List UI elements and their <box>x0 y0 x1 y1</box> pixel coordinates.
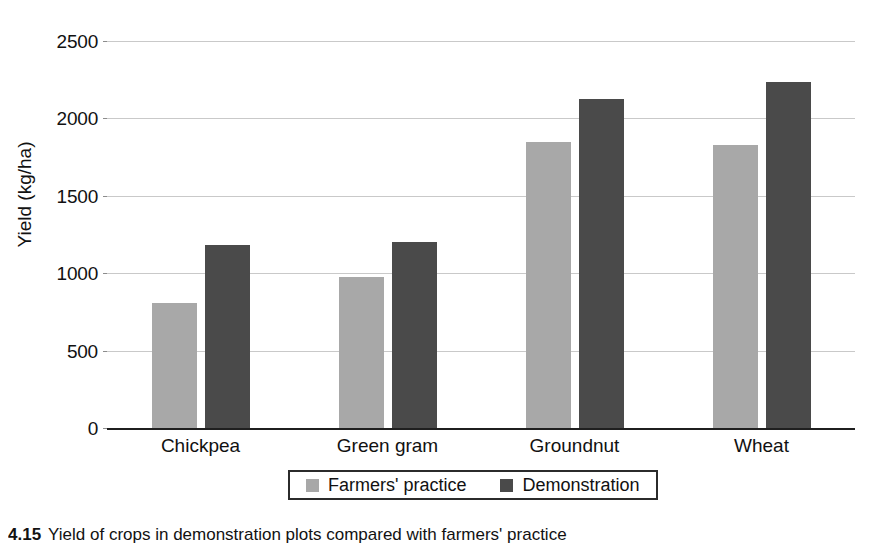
bar-green-gram-demonstration <box>392 242 437 428</box>
figure-caption-text: Yield of crops in demonstration plots co… <box>48 525 567 543</box>
bar-green-gram-farmers-practice <box>339 277 384 428</box>
bar-groundnut-demonstration <box>579 99 624 428</box>
x-axis-line <box>107 428 855 430</box>
gridline <box>107 41 855 42</box>
bar-wheat-demonstration <box>766 82 811 428</box>
legend-label: Demonstration <box>522 476 639 494</box>
x-axis-category-label: Groundnut <box>481 435 668 457</box>
y-axis-tick-label: 0 <box>28 419 98 438</box>
bar-chickpea-demonstration <box>205 245 250 428</box>
bar-groundnut-farmers-practice <box>526 142 571 428</box>
figure-bar-chart-yield: 05001000150020002500 Yield (kg/ha) Chick… <box>0 0 883 543</box>
chart-legend: Farmers' practiceDemonstration <box>288 470 658 500</box>
figure-caption: 4.15Yield of crops in demonstration plot… <box>8 524 878 543</box>
legend-swatch-icon <box>306 479 319 492</box>
bar-chickpea-farmers-practice <box>152 303 197 428</box>
x-axis-category-label: Chickpea <box>107 435 294 457</box>
x-axis-category-label: Green gram <box>294 435 481 457</box>
y-axis-title: Yield (kg/ha) <box>15 95 34 295</box>
plot-area <box>107 41 855 428</box>
bar-wheat-farmers-practice <box>713 145 758 428</box>
y-axis-tick-label: 500 <box>28 342 98 361</box>
y-axis-tick-label: 2000 <box>28 109 98 128</box>
legend-label: Farmers' practice <box>328 476 466 494</box>
legend-item-demonstration[interactable]: Demonstration <box>500 476 639 494</box>
figure-caption-number: 4.15 <box>8 525 41 543</box>
legend-swatch-icon <box>500 479 513 492</box>
legend-item-farmers-practice[interactable]: Farmers' practice <box>306 476 466 494</box>
x-axis-category-label: Wheat <box>668 435 855 457</box>
y-axis-tick-label: 1000 <box>28 264 98 283</box>
y-axis-tick-label: 2500 <box>28 32 98 51</box>
y-axis-tick-label: 1500 <box>28 187 98 206</box>
gridline <box>107 118 855 119</box>
